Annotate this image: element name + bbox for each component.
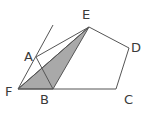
label-d: D [131,40,141,55]
segment-cd [116,48,129,89]
label-c: C [124,92,133,107]
label-b: B [40,92,49,107]
label-e: E [82,7,90,22]
label-a: A [24,49,33,64]
label-f: F [5,84,12,99]
geometry-diagram: E D C B A F [0,0,150,114]
segment-de [89,27,129,48]
